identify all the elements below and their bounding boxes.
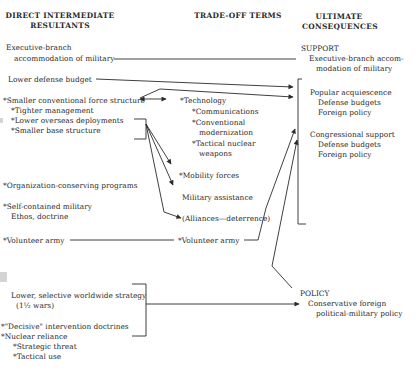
- bracket-support: [298, 79, 306, 224]
- arrow-budget-to-popular: [96, 79, 293, 87]
- arrow-to-alliances: [146, 124, 181, 218]
- arrow-policy-to-congressional: [272, 140, 297, 288]
- arrow-force-to-popular: [140, 89, 293, 98]
- arrow-to-military-assistance: [146, 124, 173, 185]
- connector-lines: [0, 0, 420, 388]
- bracket-overseas-base: [134, 119, 146, 139]
- bracket-strategy: [132, 284, 146, 336]
- arrow-volunteer-to-congressional: [244, 129, 295, 240]
